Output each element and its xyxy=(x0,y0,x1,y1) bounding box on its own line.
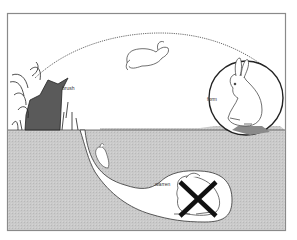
rabbit-habitat-diagram: brush form warren xyxy=(0,0,297,240)
label-brush: brush xyxy=(62,85,75,91)
diagram-canvas xyxy=(0,0,297,240)
ground-soil xyxy=(8,126,285,231)
label-form: form xyxy=(207,96,217,102)
label-warren: warren xyxy=(155,181,170,187)
